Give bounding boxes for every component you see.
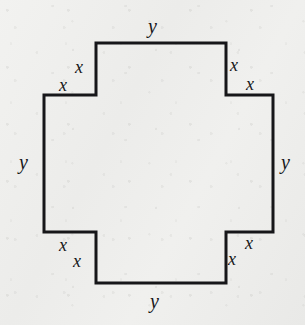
label-x-bottom-right-horizontal: x [245, 234, 253, 252]
label-x-bottom-left-horizontal: x [59, 236, 67, 254]
figure-canvas: y y y y x x x x x x x x [0, 0, 305, 325]
label-y-top: y [148, 16, 157, 36]
label-x-bottom-left-vertical: x [73, 252, 81, 270]
label-x-top-left-horizontal: x [59, 76, 67, 94]
cross-polygon-outline [44, 43, 273, 283]
label-y-bottom: y [150, 291, 159, 311]
label-x-top-right-horizontal: x [246, 75, 254, 93]
label-y-left: y [19, 152, 28, 172]
label-x-top-right-vertical: x [230, 56, 238, 74]
label-x-top-left-vertical: x [75, 58, 83, 76]
label-x-bottom-right-vertical: x [228, 250, 236, 268]
label-y-right: y [281, 152, 290, 172]
cross-polygon-svg [0, 0, 305, 325]
